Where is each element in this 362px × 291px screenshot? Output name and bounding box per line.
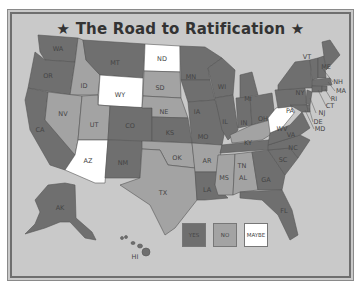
label-CA: CA <box>36 126 46 134</box>
label-AR: AR <box>203 157 212 165</box>
legend: YES NO MAYBE <box>182 223 268 247</box>
label-NH: NH <box>333 78 343 86</box>
legend-yes: YES <box>182 223 206 247</box>
label-IA: IA <box>194 108 201 116</box>
label-HI: HI <box>132 253 139 261</box>
label-ME: ME <box>321 63 331 71</box>
label-OK: OK <box>172 154 182 162</box>
state-IA[interactable] <box>181 80 215 102</box>
us-map: WA OR CA ID NV MT WY UT AZ CO NM ND SD N… <box>0 0 362 291</box>
state-CT[interactable] <box>312 86 322 92</box>
label-MD: MD <box>315 125 326 133</box>
label-WI: WI <box>218 83 226 91</box>
label-NE: NE <box>160 108 169 116</box>
label-MI: MI <box>244 95 252 103</box>
label-TN: TN <box>237 162 247 170</box>
label-IN: IN <box>241 119 248 127</box>
label-NY: NY <box>296 89 305 97</box>
label-MN: MN <box>186 73 197 81</box>
label-ID: ID <box>81 82 88 90</box>
label-AK: AK <box>56 204 65 212</box>
label-WV: WV <box>277 125 288 133</box>
label-IL: IL <box>222 118 228 126</box>
label-KY: KY <box>244 139 252 147</box>
label-VA: VA <box>287 131 296 139</box>
label-KS: KS <box>166 129 174 137</box>
label-VT: VT <box>303 53 311 61</box>
label-NM: NM <box>118 159 128 167</box>
legend-maybe-label: MAYBE <box>247 232 266 238</box>
label-OH: OH <box>258 115 268 123</box>
label-AZ: AZ <box>84 157 93 165</box>
state-NJ[interactable] <box>306 90 312 105</box>
label-MA: MA <box>336 87 347 95</box>
state-RI[interactable] <box>322 86 327 91</box>
label-MO: MO <box>198 133 209 141</box>
label-CT: CT <box>326 102 335 110</box>
legend-yes-label: YES <box>189 232 199 238</box>
legend-no-label: NO <box>221 232 229 238</box>
legend-no: NO <box>213 223 237 247</box>
label-MT: MT <box>110 59 120 67</box>
state-NY[interactable] <box>278 60 312 90</box>
label-AL: AL <box>239 174 247 182</box>
label-MS: MS <box>219 174 229 182</box>
label-NJ: NJ <box>319 109 326 117</box>
label-NV: NV <box>58 110 68 118</box>
label-SC: SC <box>279 156 288 164</box>
label-FL: FL <box>280 207 288 215</box>
label-PA: PA <box>286 107 295 115</box>
label-UT: UT <box>90 121 99 129</box>
label-TX: TX <box>158 189 168 197</box>
label-ND: ND <box>157 55 167 63</box>
label-WY: WY <box>115 91 125 99</box>
label-WA: WA <box>53 45 64 53</box>
label-OR: OR <box>43 72 53 80</box>
label-GA: GA <box>261 176 271 184</box>
label-LA: LA <box>203 186 212 194</box>
legend-maybe: MAYBE <box>244 223 268 247</box>
label-NC: NC <box>288 144 298 152</box>
label-CO: CO <box>125 122 135 130</box>
label-SD: SD <box>155 84 164 92</box>
